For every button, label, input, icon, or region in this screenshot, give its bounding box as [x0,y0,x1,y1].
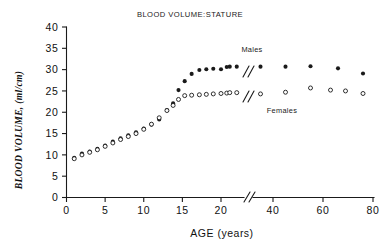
x-tick-label: 60 [317,204,330,216]
data-point-males [361,71,365,75]
data-point-males [228,65,232,69]
data-point-females [309,86,313,90]
data-point-females [111,141,115,145]
chart-title: BLOOD VOLUME:STATURE [137,10,243,19]
data-point-females [183,94,187,98]
series-label-males: Males [241,45,262,54]
data-point-males [219,67,223,71]
y-tick-label: 0 [52,191,58,203]
data-point-females [235,91,239,95]
x-tick-label: 40 [267,204,280,216]
data-point-females [361,91,365,95]
data-break-icon-males [243,66,254,77]
x-tick-label: 5 [102,204,108,216]
data-point-females [228,91,232,95]
blood-volume-stature-scatter-chart: BLOOD VOLUME:STATURE BLOOD VOLUME, (ml/c… [0,0,380,246]
y-tick-label: 20 [46,106,59,118]
data-point-males [183,79,187,83]
data-point-females [149,122,153,126]
data-point-females [157,116,161,120]
data-point-females [211,92,215,96]
x-axis-ticks: 05101520406080 [63,198,379,216]
data-point-females [344,89,348,93]
data-point-females [126,135,130,139]
data-point-females [219,91,223,95]
data-point-females [329,88,333,92]
y-axis-ticks: 0510152025303540 [46,21,67,204]
data-point-females [190,93,194,97]
data-point-males [336,66,340,70]
y-tick-label: 10 [46,149,59,161]
data-point-males [176,88,180,92]
data-break-icon-females [243,91,254,102]
data-point-females [95,148,99,152]
data-point-males [258,65,262,69]
series-males-points [72,64,365,160]
y-tick-label: 5 [52,170,58,182]
y-axis-title: BLOOD VOLUME, (ml/cm) [13,71,25,191]
x-tick-label: 0 [63,204,69,216]
y-tick-label: 35 [46,42,59,54]
y-tick-label: 40 [46,21,59,33]
data-point-females [171,103,175,107]
data-point-females [134,132,138,136]
data-point-males [204,67,208,71]
data-point-females [142,127,146,131]
data-point-females [72,157,76,161]
data-point-males [308,64,312,68]
data-point-females [165,109,169,113]
data-point-females [177,97,181,101]
data-point-males [235,65,239,69]
series-label-females: Females [267,106,297,115]
x-tick-label: 10 [137,204,150,216]
data-point-females [197,93,201,97]
chart-figure: BLOOD VOLUME:STATURE BLOOD VOLUME, (ml/c… [0,0,380,246]
x-tick-label: 15 [176,204,189,216]
y-tick-label: 25 [46,85,59,97]
y-tick-label: 30 [46,63,59,75]
data-point-females [259,92,263,96]
data-point-females [88,150,92,154]
data-point-males [197,68,201,72]
data-point-females [284,90,288,94]
data-point-males [190,72,194,76]
data-point-females [80,153,84,157]
data-point-males [211,67,215,71]
x-tick-label: 80 [367,204,380,216]
data-point-males [283,65,287,69]
x-axis-title: AGE (years) [190,227,253,239]
data-point-females [204,92,208,96]
series-females-points [72,86,365,161]
x-tick-label: 20 [215,204,228,216]
data-point-females [119,138,123,142]
data-point-females [103,144,107,148]
y-tick-label: 15 [46,127,59,139]
